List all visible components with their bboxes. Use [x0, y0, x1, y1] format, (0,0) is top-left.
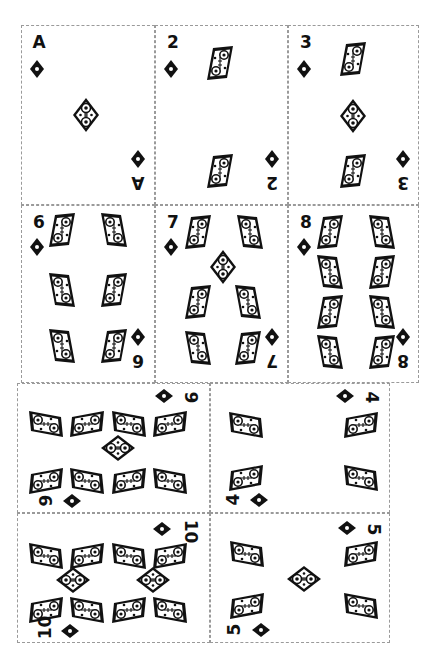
- card-six-of-diamonds[interactable]: 6 6: [21, 205, 155, 383]
- rank-index-bottom: 10: [37, 616, 54, 640]
- card-two-of-diamonds[interactable]: 2 2: [155, 25, 288, 205]
- rank-index-bottom: 8: [395, 352, 411, 369]
- card-nine-of-diamonds[interactable]: 9 9: [17, 383, 210, 513]
- card-eight-of-diamonds[interactable]: 8 8: [288, 205, 419, 383]
- rank-index-bottom: 6: [130, 352, 146, 369]
- rank-index-bottom: 2: [264, 174, 280, 191]
- rank-index-top: 4: [363, 390, 380, 406]
- card-three-of-diamonds[interactable]: 3 3: [288, 25, 419, 205]
- rank-index-bottom: 5: [226, 622, 243, 638]
- rank-index-top: 5: [365, 522, 382, 538]
- rank-index-bottom: 9: [38, 493, 55, 509]
- rank-index-bottom: A: [130, 174, 146, 191]
- rank-index-top: 3: [298, 34, 314, 51]
- card-four-of-diamonds[interactable]: 4 4: [210, 383, 390, 513]
- rank-index-top: A: [31, 34, 47, 51]
- card-ace-of-diamonds[interactable]: A A: [21, 25, 155, 205]
- rank-index-bottom: 4: [225, 492, 242, 508]
- rank-index-top: 6: [31, 214, 47, 231]
- rank-index-top: 2: [165, 34, 181, 51]
- rank-index-bottom: 3: [395, 174, 411, 191]
- rank-index-top: 8: [298, 214, 314, 231]
- rank-index-bottom: 7: [264, 352, 280, 369]
- rank-index-top: 10: [182, 520, 199, 544]
- card-five-of-diamonds[interactable]: 5 5: [210, 513, 390, 643]
- card-ten-of-diamonds[interactable]: 10 10: [17, 513, 210, 643]
- rank-index-top: 7: [165, 214, 181, 231]
- card-seven-of-diamonds[interactable]: 7 7: [155, 205, 288, 383]
- rank-index-top: 9: [182, 390, 199, 406]
